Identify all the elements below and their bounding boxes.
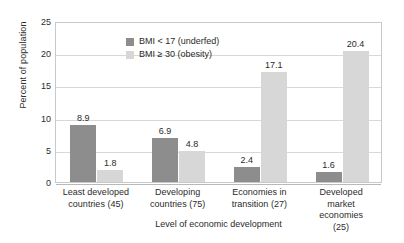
- y-tick-label: 0: [30, 178, 51, 188]
- legend-label: BMI < 17 (underfed): [139, 36, 219, 47]
- legend-item: BMI < 17 (underfed): [126, 36, 219, 47]
- x-category-label-line: Least developed: [63, 187, 129, 197]
- x-category-label: Economies intransition (27): [232, 187, 287, 210]
- bar-value-label: 4.8: [186, 139, 199, 149]
- y-tick-label: 10: [30, 114, 51, 124]
- legend-item: BMI ≥ 30 (obesity): [126, 49, 219, 60]
- axis-baseline: [56, 184, 381, 185]
- x-axis-title: Level of economic development: [55, 219, 382, 229]
- bar-group: 1.620.4: [316, 23, 369, 182]
- bar-value-label: 2.4: [241, 155, 254, 165]
- x-category-label-line: Developing: [155, 187, 200, 197]
- x-category-label-line: transition (27): [232, 199, 287, 211]
- y-tick-label: 20: [30, 49, 51, 59]
- bar-value-label: 8.9: [77, 113, 90, 123]
- bar: [70, 125, 96, 182]
- y-tick-label: 25: [30, 17, 51, 27]
- y-tick-label: 15: [30, 81, 51, 91]
- bar-value-label: 1.8: [104, 158, 117, 168]
- bar-group: 8.91.8: [70, 23, 123, 182]
- legend-swatch-icon: [126, 51, 134, 59]
- chart-legend: BMI < 17 (underfed)BMI ≥ 30 (obesity): [126, 36, 219, 62]
- bar-value-label: 6.9: [159, 126, 172, 136]
- x-category-label: Least developedcountries (45): [63, 187, 129, 210]
- bar-value-label: 20.4: [347, 39, 365, 49]
- y-axis-tick-labels: 0510152025: [30, 22, 51, 183]
- bar-chart: Percent of population 0510152025 8.91.86…: [0, 0, 404, 243]
- bar-value-label: 17.1: [265, 60, 283, 70]
- y-tick-label: 5: [30, 146, 51, 156]
- y-axis-title: Percent of population: [18, 0, 28, 130]
- bar: [343, 51, 369, 182]
- x-category-label-line: countries (45): [63, 199, 129, 211]
- legend-swatch-icon: [126, 38, 134, 46]
- bar: [97, 170, 123, 182]
- x-axis-category-labels: Least developedcountries (45)Developingc…: [55, 187, 382, 215]
- x-category-label: Developingcountries (75): [150, 187, 205, 210]
- x-category-label-line: Economies in: [232, 187, 286, 197]
- bar: [261, 72, 287, 182]
- legend-label: BMI ≥ 30 (obesity): [139, 49, 212, 60]
- bar: [234, 167, 260, 182]
- x-category-label-line: countries (75): [150, 199, 205, 211]
- bar: [152, 138, 178, 182]
- x-category-label-line: Developed market: [320, 187, 363, 209]
- bar: [316, 172, 342, 182]
- bar: [179, 151, 205, 182]
- bar-group: 2.417.1: [234, 23, 287, 182]
- bar-value-label: 1.6: [322, 160, 335, 170]
